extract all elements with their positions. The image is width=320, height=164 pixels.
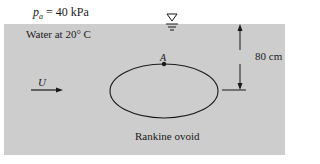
velocity-arrow-icon (31, 88, 63, 93)
free-surface-icon (166, 14, 178, 30)
dimension-arrowhead-up-icon (238, 24, 243, 31)
dimension-arrowhead-down-icon (238, 83, 243, 90)
velocity-label: U (38, 76, 46, 88)
rankine-ovoid-shape (110, 64, 218, 118)
depth-dimension-label: 80 cm (255, 50, 282, 62)
body-label: Rankine ovoid (135, 130, 199, 142)
point-a-label: A (160, 52, 166, 63)
depth-dimension-icon (222, 27, 246, 90)
